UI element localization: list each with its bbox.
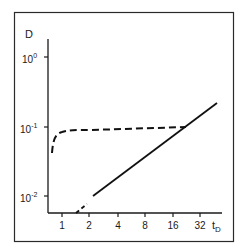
svg-text:16: 16 bbox=[167, 220, 179, 231]
svg-text:100: 100 bbox=[22, 52, 37, 65]
x-tick-labels: 1 2 4 8 16 32 bbox=[59, 220, 206, 231]
svg-text:4: 4 bbox=[115, 220, 121, 231]
svg-text:1: 1 bbox=[59, 220, 65, 231]
y-axis-label: D bbox=[25, 28, 33, 40]
svg-text:10-2: 10-2 bbox=[20, 191, 37, 204]
chart: 100 10-1 10-2 1 2 4 8 16 32 D tD bbox=[0, 0, 249, 249]
svg-text:32: 32 bbox=[194, 220, 206, 231]
svg-text:2: 2 bbox=[86, 220, 92, 231]
dashed-curve bbox=[52, 127, 186, 153]
svg-text:10-1: 10-1 bbox=[20, 122, 37, 135]
solid-line bbox=[93, 103, 217, 196]
svg-text:8: 8 bbox=[142, 220, 148, 231]
x-axis-label: tD bbox=[212, 219, 221, 234]
solid-line-extrapolation bbox=[76, 204, 87, 213]
y-tick-labels: 100 10-1 10-2 bbox=[20, 52, 37, 204]
